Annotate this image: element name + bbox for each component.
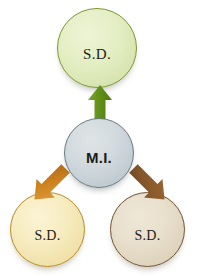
node-center-mi: M.I. [64, 118, 134, 188]
node-bottom-right-label: S.D. [134, 229, 160, 243]
diagram-canvas: S.D. M.I. S.D. S.D. [0, 0, 199, 276]
node-center-label: M.I. [86, 150, 112, 165]
node-top-sd: S.D. [57, 8, 137, 88]
node-top-label: S.D. [83, 47, 111, 62]
node-bottom-left-label: S.D. [34, 229, 60, 243]
